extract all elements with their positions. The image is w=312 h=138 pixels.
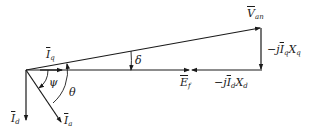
label-e-f: Ef [180, 77, 191, 90]
v-an-phasor [26, 28, 260, 70]
label-theta: θ [69, 87, 76, 98]
label-v-an: Van [247, 8, 264, 21]
label-i-d: Id [11, 113, 20, 126]
label-i-q: Iq [46, 49, 55, 62]
label-jidxd: −jIdXd [214, 77, 248, 90]
label-i-a: Ia [64, 115, 73, 128]
label-delta: δ [135, 55, 142, 66]
psi-arc [39, 70, 48, 88]
label-psi: ψ [49, 77, 58, 88]
label-jiqxq: −jIqXq [267, 44, 301, 57]
phasor-diagram [0, 0, 312, 138]
